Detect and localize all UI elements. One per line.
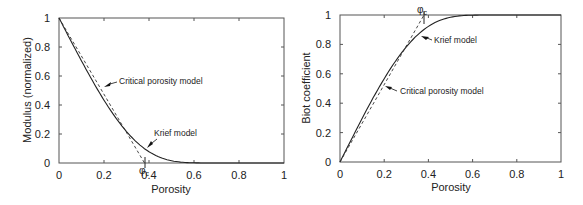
x-tick-label: 0.8	[231, 169, 246, 181]
y-tick-label: 1	[44, 12, 50, 24]
figure: 00.20.40.60.8100.20.40.60.81 Critical po…	[0, 0, 583, 205]
y-tick-label: 0.6	[316, 68, 331, 80]
y-tick-label: 1	[325, 9, 331, 21]
left-x-axis-title: Porosity	[151, 183, 191, 195]
x-tick-label: 0.6	[465, 168, 480, 180]
left-critical-arrow-icon	[104, 82, 111, 87]
right-x-axis-title: Porosity	[431, 181, 471, 193]
left-critical-porosity-line	[59, 18, 145, 163]
right-phic-label: φc	[417, 4, 427, 16]
y-tick-label: 0.6	[35, 70, 50, 82]
y-tick-label: 0	[44, 157, 50, 169]
left-chart: 00.20.40.60.8100.20.40.60.81 Critical po…	[21, 12, 287, 195]
right-krief-arrow-line	[427, 38, 432, 40]
x-tick-label: 0	[337, 168, 343, 180]
y-tick-label: 0.2	[316, 127, 331, 139]
left-krief-arrow-line	[152, 139, 157, 143]
x-tick-label: 0	[56, 169, 62, 181]
left-krief-curve	[59, 18, 284, 163]
left-critical-arrow-line	[110, 82, 117, 84]
x-tick-label: 1	[558, 168, 564, 180]
left-plot-frame	[59, 18, 284, 163]
x-tick-label: 0.2	[96, 169, 111, 181]
x-tick-label: 0.6	[186, 169, 201, 181]
y-tick-label: 0.8	[316, 38, 331, 50]
right-critical-arrow-line	[390, 88, 397, 91]
left-krief-label: Krief model	[154, 128, 197, 138]
left-y-axis-title: Modulus (normalized)	[21, 37, 33, 143]
right-y-axis-title: Biot coefficient	[300, 52, 312, 123]
y-tick-label: 0	[325, 156, 331, 168]
y-tick-label: 0.4	[35, 99, 50, 111]
y-tick-label: 0.2	[35, 128, 50, 140]
right-critical-label: Critical porosity model	[400, 86, 484, 96]
left-axis-ticks: 00.20.40.60.8100.20.40.60.81	[35, 12, 287, 181]
left-krief-arrow-icon	[147, 141, 153, 148]
right-krief-label: Krief model	[434, 35, 477, 45]
x-tick-label: 0.2	[377, 168, 392, 180]
x-tick-label: 0.8	[509, 168, 524, 180]
left-critical-label: Critical porosity model	[119, 76, 203, 86]
right-chart: 00.20.40.60.8100.20.40.60.81 Krief model…	[300, 4, 564, 193]
x-tick-label: 1	[281, 169, 287, 181]
y-tick-label: 0.8	[35, 41, 50, 53]
x-tick-label: 0.4	[421, 168, 436, 180]
left-phic-label: φc	[139, 165, 149, 177]
y-tick-label: 0.4	[316, 97, 331, 109]
